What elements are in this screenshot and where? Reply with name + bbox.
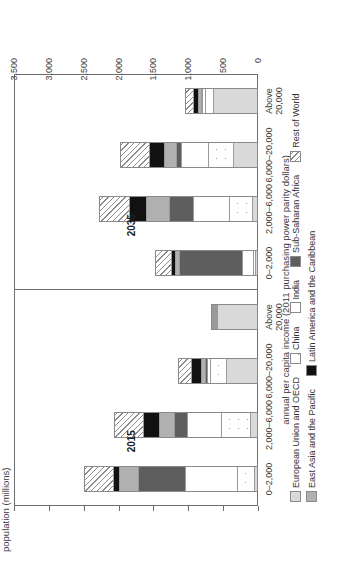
bar-segment-in [194,197,230,221]
legend-swatch-row-icon [290,151,301,162]
bar-segment-eu [255,467,257,491]
legend-swatch-cn-icon [290,353,301,364]
legend-swatch-in-icon [290,302,301,313]
legend-label: Rest of World [291,93,301,147]
bar-2015-02000 [84,466,258,492]
bar-segment-eu [251,413,257,437]
legend-item: India [290,280,301,314]
bar-segment-cn [238,467,255,491]
bar-segment-eu [256,251,257,275]
bar-segment-in [182,143,209,167]
bar-2035-600020000 [120,142,258,168]
y-tick-label: 0 [253,58,263,63]
bar-segment-eu [253,197,257,221]
chart-screenshot: population (millions) 05001,0001,5002,00… [0,0,346,562]
bar-segment-in [186,467,238,491]
bar-segment-eap [147,197,170,221]
y-axis [14,505,258,506]
x-category-label: 6,000–20,000 [264,127,274,182]
bar-segment-ssa [139,467,186,491]
legend-label: India [291,280,301,300]
bar-segment-lac [144,413,160,437]
legend-swatch-eap-icon [306,491,317,502]
legend-label: European Union and OECD [291,377,301,488]
bar-segment-lac [192,359,202,383]
y-tick-label: 2,000 [114,58,124,81]
bar-segment-in [243,251,254,275]
legend-row-2: East Asia and the PacificLatin America a… [306,32,317,502]
bar-2035-20006000 [99,196,258,222]
y-tick-label: 2,500 [79,58,89,81]
y-tick [14,506,15,511]
bar-segment-in [188,413,222,437]
y-axis-title: population (millions) [0,468,11,552]
bar-segment-cn [230,197,253,221]
legend-item: Latin America and the Caribbean [306,231,317,376]
bar-segment-ssa [175,413,187,437]
chart-legend: European Union and OECDChinaIndiaSub-Sah… [290,32,322,502]
y-tick-label: 1,500 [148,58,158,81]
legend-item: Sub-Saharan Africa [290,175,301,267]
bar-segment-cn [206,89,213,113]
y-tick [49,506,50,511]
x-category-label: 2,000–6,000 [264,400,274,450]
y-tick [188,506,189,511]
bar-segment-cn [211,359,227,383]
bar-segment-row [186,89,194,113]
legend-label: East Asia and the Pacific [307,389,317,488]
y-tick [223,506,224,511]
x-category-label: 0–2,000 [264,247,274,280]
bar-segment-eu [227,359,257,383]
x-category-label: 0–2,000 [264,463,274,496]
panel-divider [14,289,258,290]
bar-segment-eap [165,143,177,167]
bar-2015-600020000 [178,358,258,384]
bar-segment-cn [209,143,234,167]
y-tick [258,506,259,511]
bar-segment-cn [222,413,251,437]
bar-2035-Above20000 [185,88,258,114]
legend-label: China [291,326,301,350]
legend-row-1: European Union and OECDChinaIndiaSub-Sah… [290,32,301,502]
y-tick [119,506,120,511]
legend-item: European Union and OECD [290,377,301,502]
bar-2015-Above20000 [211,304,258,330]
bar-segment-row [156,251,172,275]
bar-segment-row [85,467,114,491]
bar-segment-eap [160,413,175,437]
legend-swatch-eu-icon [290,491,301,502]
y-tick-label: 500 [218,58,228,73]
bar-segment-eu [214,89,257,113]
bar-segment-lac [150,143,164,167]
legend-swatch-lac-icon [306,365,317,376]
y-tick-label: 3,000 [44,58,54,81]
legend-item: East Asia and the Pacific [306,389,317,502]
legend-item: Rest of World [290,93,301,161]
bar-segment-eu [234,143,257,167]
y-tick [153,506,154,511]
panel-title-2035: 2035 [126,214,137,236]
y-tick-label: 3,500 [9,58,19,81]
bar-segment-ssa [180,251,244,275]
legend-item: China [290,326,301,364]
legend-swatch-ssa-icon [290,256,301,267]
x-category-label: Above20,000 [264,87,284,115]
legend-label: Latin America and the Caribbean [307,231,317,362]
legend-label: Sub-Saharan Africa [291,175,301,253]
panel-title-2015: 2015 [126,430,137,452]
bar-segment-eap [120,467,139,491]
y-tick-label: 1,000 [183,58,193,81]
chart-figure: population (millions) 05001,0001,5002,00… [0,0,346,562]
y-tick [84,506,85,511]
x-category-label: 6,000–20,000 [264,343,274,398]
bar-segment-ssa [170,197,195,221]
x-category-label: 2,000–6,000 [264,184,274,234]
bar-segment-eu [218,305,258,329]
bar-segment-row [179,359,193,383]
bar-2035-02000 [155,250,258,276]
bar-segment-row [121,143,150,167]
